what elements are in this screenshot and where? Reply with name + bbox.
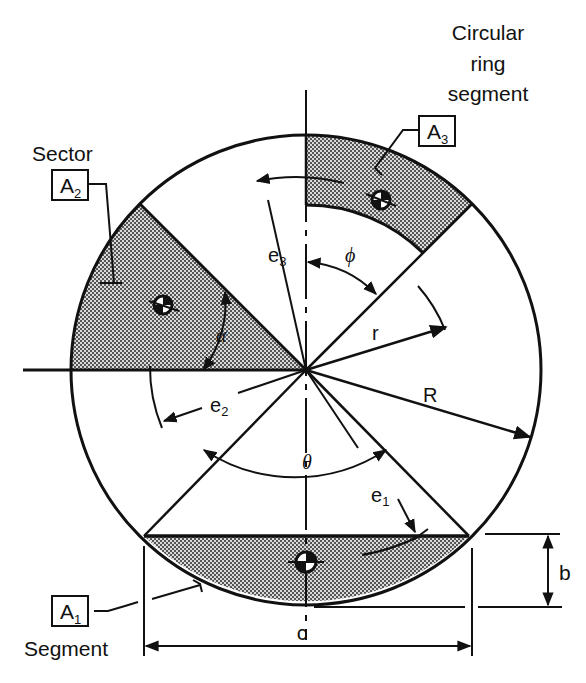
alpha-label: α xyxy=(216,324,227,346)
phi-arc xyxy=(308,262,376,294)
phi-label: ϕ xyxy=(345,244,355,267)
sector-title: Sector xyxy=(32,142,93,165)
ring-title-line2: ring xyxy=(470,52,505,75)
theta-ray-left xyxy=(144,370,306,536)
segment-title: Segment xyxy=(24,637,108,660)
e1-arrow xyxy=(398,499,415,532)
ring-title-line3: segment xyxy=(448,82,529,105)
a1-leader-2 xyxy=(152,585,200,599)
theta-label: θ xyxy=(302,451,312,473)
circle-diagram: Circular ring segment A3 Sector A2 A1 Se… xyxy=(0,0,586,683)
e2-arc xyxy=(150,366,162,428)
ring-title-line1: Circular xyxy=(452,21,524,44)
e2-arrow xyxy=(164,408,202,421)
theta-arc xyxy=(204,450,386,477)
R-label: R xyxy=(423,384,437,406)
e1-line xyxy=(306,370,358,448)
a1-leader xyxy=(94,602,138,611)
sector-a2-area xyxy=(71,204,306,370)
b-label: b xyxy=(559,561,571,584)
e3-label: e3 xyxy=(268,244,286,269)
e1-label: e1 xyxy=(371,484,389,509)
c-label: c xyxy=(297,621,308,644)
e2-label: e2 xyxy=(210,394,228,419)
r-label: r xyxy=(372,322,379,344)
r-arc xyxy=(418,286,445,330)
